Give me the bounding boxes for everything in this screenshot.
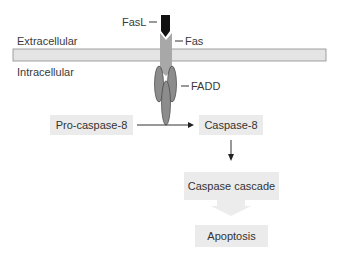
caspase-cascade-node: Caspase cascade (184, 172, 279, 200)
fasl-ligand (161, 15, 170, 37)
apoptosis-label: Apoptosis (207, 230, 255, 242)
extracellular-label: Extracellular (17, 35, 78, 47)
caspase-cascade-label: Caspase cascade (188, 180, 275, 192)
cascade-arrowhead-icon (228, 154, 234, 161)
fadd-label: FADD (191, 80, 220, 92)
apoptosis-block-arrow-icon (211, 200, 251, 216)
fasl-label: FasL (122, 16, 146, 28)
activation-arrowhead-icon (188, 122, 194, 128)
caspase-8-node: Caspase-8 (199, 115, 263, 135)
intracellular-label: Intracellular (17, 66, 74, 78)
pro-caspase-8-label: Pro-caspase-8 (56, 119, 128, 131)
fadd-center-icon (162, 81, 171, 125)
fas-label: Fas (185, 35, 203, 47)
pro-caspase-8-node: Pro-caspase-8 (50, 115, 133, 135)
caspase-8-label: Caspase-8 (204, 119, 257, 131)
apoptosis-node: Apoptosis (195, 225, 268, 247)
